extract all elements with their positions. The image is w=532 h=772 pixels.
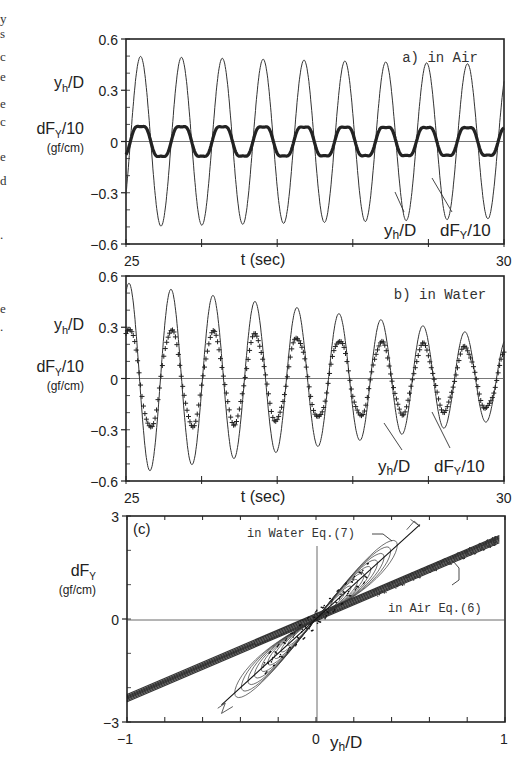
y-tick-label: 0.6 [99,32,119,48]
y-tick-label: 0.3 [99,83,119,99]
panel-b-leader-2 [432,412,450,448]
figure-canvas: 0.60.30−0.3−0.6 2530 a) in Air yh/D dFY/… [0,0,532,772]
y-tick-label: 0.6 [99,269,119,285]
svg-text:25: 25 [124,490,140,506]
svg-text:3: 3 [111,509,119,525]
panel-c-leader-water [372,534,392,541]
panel-c-annotation: (c) [133,520,151,537]
svg-text:1: 1 [500,731,508,747]
y-tick-label: 0.3 [99,320,119,336]
panel-c-label-air: in Air Eq.(6) [388,602,482,616]
panel-a: 0.60.30−0.3−0.6 2530 a) in Air yh/D dFY/… [90,32,511,269]
panel-c-xlabel: yh/D [330,733,362,754]
panel-c-label-water: in Water Eq.(7) [247,527,355,541]
panel-c-leader-air [452,561,459,585]
panel-b-curve-label-yh: yh/D [378,457,410,478]
svg-text:30: 30 [496,253,512,269]
y-tick-label: 0 [110,372,118,388]
panel-a-xlabel: t (sec) [241,251,285,268]
panel-b-curve-label-df: dFY/10 [434,457,485,477]
svg-text:0: 0 [312,731,320,747]
y-tick-label: −0.3 [90,186,118,202]
panel-a-annotation: a) in Air [402,50,478,66]
panel-c: 30−3 −101 (c) in Water Eq.(7) in Air Eq.… [103,509,508,754]
svg-text:−3: −3 [103,715,119,731]
panel-b-leader-1 [384,423,402,450]
panel-a-leader-1 [395,192,404,212]
svg-text:25: 25 [124,253,140,269]
svg-text:30: 30 [496,490,512,506]
y-tick-label: −0.6 [90,237,118,253]
panel-b-xlabel: t (sec) [241,488,285,505]
panel-a-leader-2 [432,178,452,212]
panel-c-air-band [127,535,499,701]
svg-text:−1: −1 [117,731,133,747]
panel-a-curve-label-yh: yh/D [384,221,416,242]
y-tick-label: −0.3 [90,423,118,439]
svg-text:0: 0 [111,612,119,628]
panel-b: 0.60.30−0.3−0.6 2530 b) in Water yh/D dF… [90,269,511,506]
panel-b-annotation: b) in Water [394,287,486,303]
panel-c-water-loops [218,519,420,713]
y-tick-label: 0 [110,135,118,151]
panel-a-curve-label-df: dFY/10 [440,221,491,241]
y-tick-label: −0.6 [90,474,118,490]
